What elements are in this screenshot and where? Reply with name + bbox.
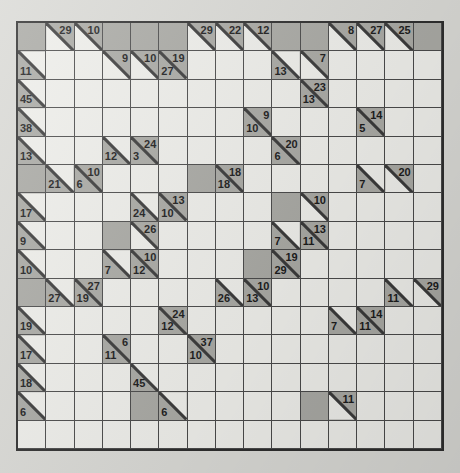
- kakuro-entry-cell[interactable]: [46, 335, 74, 363]
- kakuro-entry-cell[interactable]: [329, 421, 357, 449]
- kakuro-entry-cell[interactable]: [131, 421, 159, 449]
- kakuro-entry-cell[interactable]: [414, 250, 442, 278]
- kakuro-entry-cell[interactable]: [329, 165, 357, 193]
- kakuro-entry-cell[interactable]: [414, 421, 442, 449]
- kakuro-entry-cell[interactable]: [188, 250, 216, 278]
- kakuro-entry-cell[interactable]: [103, 421, 131, 449]
- kakuro-entry-cell[interactable]: [357, 222, 385, 250]
- kakuro-entry-cell[interactable]: [357, 80, 385, 108]
- kakuro-entry-cell[interactable]: [46, 137, 74, 165]
- kakuro-entry-cell[interactable]: [301, 108, 329, 136]
- kakuro-entry-cell[interactable]: [159, 165, 187, 193]
- kakuro-entry-cell[interactable]: [329, 364, 357, 392]
- kakuro-entry-cell[interactable]: [329, 250, 357, 278]
- kakuro-entry-cell[interactable]: [188, 222, 216, 250]
- kakuro-entry-cell[interactable]: [216, 193, 244, 221]
- kakuro-entry-cell[interactable]: [272, 335, 300, 363]
- kakuro-entry-cell[interactable]: [301, 307, 329, 335]
- kakuro-entry-cell[interactable]: [272, 307, 300, 335]
- kakuro-entry-cell[interactable]: [46, 392, 74, 420]
- kakuro-entry-cell[interactable]: [103, 307, 131, 335]
- kakuro-entry-cell[interactable]: [216, 80, 244, 108]
- kakuro-entry-cell[interactable]: [75, 222, 103, 250]
- kakuro-entry-cell[interactable]: [159, 222, 187, 250]
- kakuro-entry-cell[interactable]: [103, 193, 131, 221]
- kakuro-grid[interactable]: 2910292212827251191019271374523133891014…: [16, 21, 444, 451]
- kakuro-entry-cell[interactable]: [188, 279, 216, 307]
- kakuro-entry-cell[interactable]: [216, 222, 244, 250]
- kakuro-entry-cell[interactable]: [244, 222, 272, 250]
- kakuro-entry-cell[interactable]: [103, 364, 131, 392]
- kakuro-entry-cell[interactable]: [216, 421, 244, 449]
- kakuro-entry-cell[interactable]: [329, 51, 357, 79]
- kakuro-entry-cell[interactable]: [159, 137, 187, 165]
- kakuro-entry-cell[interactable]: [46, 421, 74, 449]
- kakuro-entry-cell[interactable]: [244, 80, 272, 108]
- kakuro-entry-cell[interactable]: [301, 364, 329, 392]
- kakuro-entry-cell[interactable]: [131, 108, 159, 136]
- kakuro-entry-cell[interactable]: [329, 80, 357, 108]
- kakuro-entry-cell[interactable]: [385, 108, 413, 136]
- kakuro-entry-cell[interactable]: [159, 80, 187, 108]
- kakuro-entry-cell[interactable]: [75, 364, 103, 392]
- kakuro-entry-cell[interactable]: [414, 392, 442, 420]
- kakuro-entry-cell[interactable]: [75, 421, 103, 449]
- kakuro-entry-cell[interactable]: [103, 165, 131, 193]
- kakuro-entry-cell[interactable]: [159, 335, 187, 363]
- kakuro-entry-cell[interactable]: [131, 307, 159, 335]
- kakuro-entry-cell[interactable]: [18, 421, 46, 449]
- kakuro-entry-cell[interactable]: [216, 250, 244, 278]
- kakuro-entry-cell[interactable]: [414, 51, 442, 79]
- kakuro-entry-cell[interactable]: [357, 335, 385, 363]
- kakuro-entry-cell[interactable]: [75, 250, 103, 278]
- kakuro-entry-cell[interactable]: [188, 307, 216, 335]
- kakuro-entry-cell[interactable]: [357, 279, 385, 307]
- kakuro-entry-cell[interactable]: [75, 193, 103, 221]
- kakuro-entry-cell[interactable]: [75, 137, 103, 165]
- kakuro-entry-cell[interactable]: [301, 137, 329, 165]
- kakuro-entry-cell[interactable]: [244, 392, 272, 420]
- kakuro-entry-cell[interactable]: [103, 108, 131, 136]
- kakuro-entry-cell[interactable]: [75, 335, 103, 363]
- kakuro-entry-cell[interactable]: [272, 80, 300, 108]
- kakuro-entry-cell[interactable]: [75, 108, 103, 136]
- kakuro-entry-cell[interactable]: [357, 51, 385, 79]
- kakuro-entry-cell[interactable]: [414, 193, 442, 221]
- kakuro-entry-cell[interactable]: [329, 137, 357, 165]
- kakuro-entry-cell[interactable]: [244, 364, 272, 392]
- kakuro-entry-cell[interactable]: [244, 307, 272, 335]
- kakuro-entry-cell[interactable]: [131, 80, 159, 108]
- kakuro-entry-cell[interactable]: [216, 137, 244, 165]
- kakuro-entry-cell[interactable]: [301, 279, 329, 307]
- kakuro-entry-cell[interactable]: [414, 335, 442, 363]
- kakuro-entry-cell[interactable]: [357, 250, 385, 278]
- kakuro-entry-cell[interactable]: [414, 165, 442, 193]
- kakuro-entry-cell[interactable]: [385, 307, 413, 335]
- kakuro-entry-cell[interactable]: [216, 307, 244, 335]
- kakuro-entry-cell[interactable]: [75, 80, 103, 108]
- kakuro-entry-cell[interactable]: [75, 51, 103, 79]
- kakuro-entry-cell[interactable]: [272, 165, 300, 193]
- kakuro-entry-cell[interactable]: [385, 137, 413, 165]
- kakuro-entry-cell[interactable]: [131, 279, 159, 307]
- kakuro-entry-cell[interactable]: [272, 279, 300, 307]
- kakuro-entry-cell[interactable]: [188, 421, 216, 449]
- kakuro-entry-cell[interactable]: [75, 392, 103, 420]
- kakuro-entry-cell[interactable]: [385, 222, 413, 250]
- kakuro-entry-cell[interactable]: [385, 364, 413, 392]
- kakuro-entry-cell[interactable]: [272, 421, 300, 449]
- kakuro-entry-cell[interactable]: [188, 364, 216, 392]
- kakuro-entry-cell[interactable]: [188, 80, 216, 108]
- kakuro-entry-cell[interactable]: [414, 364, 442, 392]
- kakuro-entry-cell[interactable]: [46, 51, 74, 79]
- kakuro-entry-cell[interactable]: [272, 108, 300, 136]
- kakuro-entry-cell[interactable]: [75, 307, 103, 335]
- kakuro-entry-cell[interactable]: [301, 421, 329, 449]
- kakuro-entry-cell[interactable]: [159, 364, 187, 392]
- kakuro-entry-cell[interactable]: [46, 250, 74, 278]
- kakuro-entry-cell[interactable]: [272, 392, 300, 420]
- kakuro-entry-cell[interactable]: [244, 335, 272, 363]
- kakuro-entry-cell[interactable]: [216, 335, 244, 363]
- kakuro-entry-cell[interactable]: [357, 421, 385, 449]
- kakuro-entry-cell[interactable]: [357, 392, 385, 420]
